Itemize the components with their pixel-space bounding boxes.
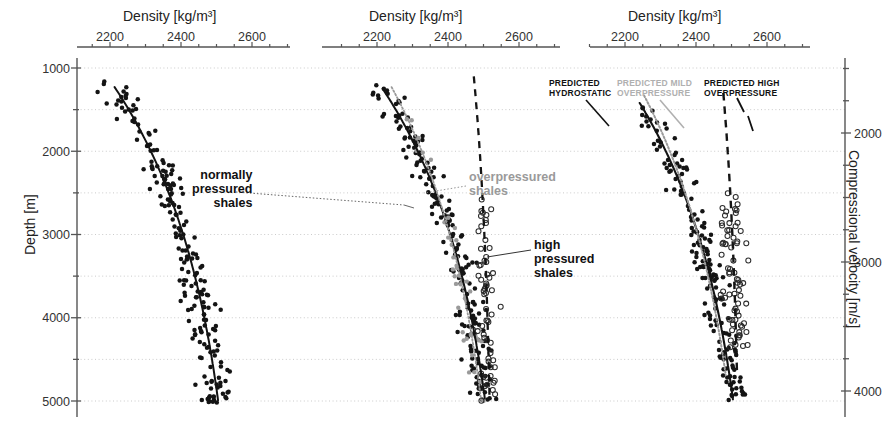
data-point-filled (398, 124, 403, 129)
data-point-filled (116, 98, 121, 103)
data-point-filled (451, 232, 456, 237)
data-point-filled (213, 302, 218, 307)
data-point-filled (640, 124, 645, 129)
data-point-filled (102, 82, 107, 87)
density-tick-label-panel-2-2200: 2200 (363, 30, 391, 44)
leader-high-pressured (487, 250, 531, 257)
data-point-filled (646, 124, 651, 129)
data-point-filled (226, 389, 231, 394)
data-point-filled (192, 328, 197, 333)
data-point-filled (376, 93, 381, 98)
data-point-filled (199, 329, 204, 334)
data-point-open (738, 293, 743, 298)
data-point-filled (177, 205, 182, 210)
leader-overpressured (424, 186, 466, 193)
data-point-open (479, 277, 484, 282)
label-predicted-high-overpressure: PREDICTED HIGH OVERPRESSURE (704, 79, 780, 99)
data-point-gray (454, 238, 458, 242)
data-point-gray (470, 353, 474, 357)
leader-np-tip (404, 205, 414, 208)
data-point-filled (655, 147, 660, 152)
data-point-filled (447, 198, 452, 203)
data-point-filled (721, 373, 726, 378)
data-point-filled (171, 163, 176, 168)
data-point-filled (210, 379, 215, 384)
data-point-filled (198, 355, 203, 360)
label-predicted-mild-overpressure: PREDICTED MILD OVERPRESSURE (617, 79, 692, 99)
density-tick-label-panel-2-2600: 2600 (505, 30, 533, 44)
data-point-filled (182, 283, 187, 288)
data-point-filled (689, 233, 694, 238)
data-point-filled (700, 233, 705, 238)
data-point-filled (673, 136, 678, 141)
data-point-filled (702, 221, 707, 226)
data-point-filled (223, 379, 228, 384)
depth-tick-label-1000: 1000 (42, 62, 70, 76)
data-point-filled (468, 344, 473, 349)
data-point-filled (136, 97, 141, 102)
data-point-filled (463, 254, 468, 259)
data-point-filled (215, 348, 220, 353)
data-point-filled (206, 305, 211, 310)
data-point-filled (191, 251, 196, 256)
data-point-filled (721, 275, 726, 280)
data-point-filled (201, 288, 206, 293)
data-point-filled (209, 386, 214, 391)
density-axis-title-panel-3: Density [kg/m³] (628, 8, 721, 24)
data-point-filled (131, 103, 136, 108)
data-point-filled (192, 235, 197, 240)
data-point-filled (193, 332, 198, 337)
data-point-filled (179, 257, 184, 262)
data-point-open (487, 245, 492, 250)
data-point-filled (433, 201, 438, 206)
data-point-filled (174, 231, 179, 236)
data-point-filled (219, 360, 224, 365)
data-point-open (493, 392, 498, 397)
data-point-gray (453, 274, 457, 278)
data-point-filled (664, 166, 669, 171)
data-point-gray (410, 118, 414, 122)
data-point-filled (205, 346, 210, 351)
depth-tick-label-3000: 3000 (42, 228, 70, 242)
density-tick-label-panel-3-2600: 2600 (753, 30, 781, 44)
data-point-filled (441, 240, 446, 245)
data-point-filled (473, 316, 478, 321)
data-point-gray (446, 216, 450, 220)
data-point-filled (685, 167, 690, 172)
data-point-filled (149, 160, 154, 165)
data-point-filled (664, 188, 669, 193)
data-point-filled (374, 83, 379, 88)
data-point-filled (180, 248, 185, 253)
data-point-filled (694, 255, 699, 260)
data-point-filled (700, 276, 705, 281)
data-point-filled (468, 391, 473, 396)
data-point-filled (738, 375, 743, 380)
data-point-filled (430, 212, 435, 217)
data-point-filled (206, 293, 211, 298)
data-point-open (731, 235, 736, 240)
data-point-gray (456, 306, 460, 310)
data-point-filled (444, 251, 449, 256)
data-point-filled (717, 348, 722, 353)
data-point-filled (707, 238, 712, 243)
data-point-filled (211, 399, 216, 404)
data-point-open (489, 312, 494, 317)
data-point-filled (198, 340, 203, 345)
data-point-filled (705, 286, 710, 291)
data-point-open (733, 194, 738, 199)
density-tick-label-panel-1-2600: 2600 (238, 30, 266, 44)
data-point-open (720, 205, 725, 210)
data-point-open (489, 288, 494, 293)
data-point-filled (714, 285, 719, 290)
data-point-filled (123, 109, 128, 114)
data-point-filled (424, 182, 429, 187)
data-point-filled (181, 191, 186, 196)
data-point-gray (465, 279, 469, 283)
depth-tick-label-2000: 2000 (42, 145, 70, 159)
data-point-filled (178, 299, 183, 304)
data-point-filled (732, 375, 737, 380)
data-point-open (738, 228, 743, 233)
data-point-filled (717, 263, 722, 268)
data-point-filled (700, 209, 705, 214)
data-point-filled (690, 249, 695, 254)
